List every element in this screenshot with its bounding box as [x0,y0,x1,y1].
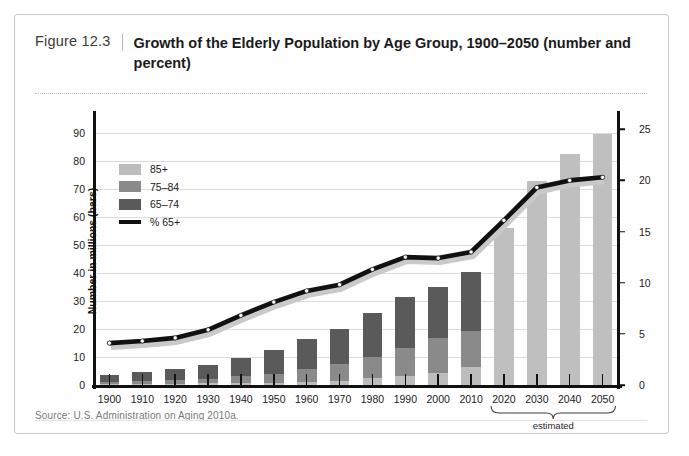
y-axis-right-tick-mark [619,231,625,233]
percent-line-marker[interactable] [140,339,144,343]
legend-item-75-84: 75–84 [119,181,180,193]
footer-rule [35,420,647,421]
y-axis-left-tick: 0 [79,379,85,391]
y-axis-left-tick: 70 [73,183,85,195]
y-axis-right-tick: 20 [639,174,651,186]
percent-line-marker[interactable] [436,256,440,260]
y-axis-right-tick: 0 [639,379,645,391]
y-axis-right-tick: 25 [639,123,651,135]
percent-line-shadow [111,180,604,346]
y-axis-right-tick: 5 [639,328,645,340]
percent-line-marker[interactable] [206,328,210,332]
legend-swatch-75-84 [119,181,141,192]
x-axis-tick-label: 1960 [295,393,318,405]
header-dotted-rule [35,93,647,94]
x-axis-tick-label: 2050 [591,393,614,405]
legend-label-85plus: 85+ [150,163,168,175]
percent-line-marker[interactable] [502,218,506,222]
figure-frame: Figure 12.3 Growth of the Elderly Popula… [14,14,669,434]
x-axis-tick-label: 1900 [98,393,121,405]
x-axis-tick-label: 2040 [558,393,581,405]
x-axis-tick-label: 2030 [525,393,548,405]
figure-header: Figure 12.3 Growth of the Elderly Popula… [35,33,647,73]
legend-line-percent-65plus [119,220,141,224]
percent-line-marker[interactable] [272,300,276,304]
x-axis-tick-label: 1990 [394,393,417,405]
legend-label-65-74: 65–74 [150,198,179,210]
y-axis-right-tick-mark [619,180,625,182]
y-axis-left-tick: 20 [73,323,85,335]
chart-legend: 85+ 75–84 65–74 % 65+ [119,163,180,233]
y-axis-left-tick: 30 [73,295,85,307]
chart-plot-area: 0102030405060708090051015202519001910192… [93,115,619,387]
y-axis-right-tick: 10 [639,277,651,289]
legend-swatch-85plus [119,164,141,175]
legend-label-75-84: 75–84 [150,181,179,193]
percent-line-marker[interactable] [173,336,177,340]
y-axis-left-tick: 90 [73,127,85,139]
figure-title: Growth of the Elderly Population by Age … [134,33,647,73]
x-axis-tick-label: 1980 [361,393,384,405]
x-axis-tick-label: 1920 [164,393,187,405]
percent-line-marker[interactable] [239,313,243,317]
x-axis-tick-label: 1950 [262,393,285,405]
x-axis-tick-label: 1910 [131,393,154,405]
x-axis-tick-label: 1930 [196,393,219,405]
percent-line-marker[interactable] [601,175,605,179]
y-axis-right-tick: 15 [639,226,651,238]
percent-65-plus-line [93,111,619,389]
y-axis-left-tick: 80 [73,155,85,167]
percent-line-marker[interactable] [469,250,473,254]
x-axis-tick-label: 1940 [229,393,252,405]
legend-label-percent-65plus: % 65+ [150,216,180,228]
x-axis-tick-label: 2020 [492,393,515,405]
y-axis-right-tick-mark [619,128,625,130]
percent-line-marker[interactable] [305,289,309,293]
y-axis-left-tick: 50 [73,239,85,251]
legend-item-percent-65plus: % 65+ [119,216,180,228]
x-axis-tick-label: 2000 [427,393,450,405]
percent-line-marker[interactable] [403,255,407,259]
y-axis-right-tick-mark [619,333,625,335]
percent-line-marker[interactable] [535,185,539,189]
y-axis-left-tick: 40 [73,267,85,279]
percent-line-marker[interactable] [370,267,374,271]
legend-item-85plus: 85+ [119,163,180,175]
x-axis-tick-label: 2010 [459,393,482,405]
percent-line-marker[interactable] [568,178,572,182]
y-axis-right-tick-mark [619,282,625,284]
estimated-label: estimated [533,420,574,431]
figure-number: Figure 12.3 [35,33,111,49]
y-axis-left-tick: 10 [73,351,85,363]
estimated-brace-path [491,406,615,419]
legend-swatch-65-74 [119,199,141,210]
legend-item-65-74: 65–74 [119,198,180,210]
x-axis-tick-label: 1970 [328,393,351,405]
y-axis-left-tick: 60 [73,211,85,223]
percent-line-marker[interactable] [338,283,342,287]
percent-line-marker[interactable] [107,341,111,345]
header-divider [122,34,123,51]
